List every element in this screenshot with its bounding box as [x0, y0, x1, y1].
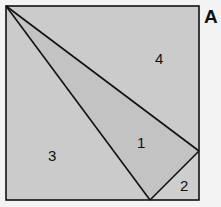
region-label-1: 1	[137, 134, 145, 151]
panel-label: A	[204, 6, 218, 27]
square-dissection-diagram: 4 1 3 2 A	[0, 0, 221, 207]
region-label-4: 4	[155, 50, 163, 67]
region-label-2: 2	[180, 177, 188, 194]
region-label-3: 3	[48, 147, 56, 164]
